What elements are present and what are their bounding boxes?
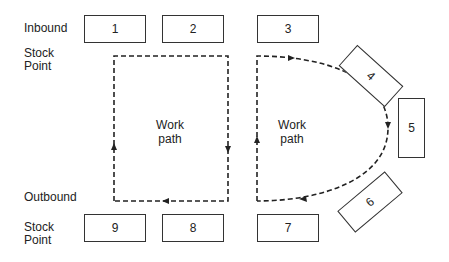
station-8: 8 bbox=[162, 214, 224, 242]
station-1: 1 bbox=[84, 15, 146, 43]
station-2: 2 bbox=[162, 15, 224, 43]
path-label: path bbox=[145, 132, 195, 146]
path-label: path bbox=[267, 132, 317, 146]
arrow-down-icon bbox=[385, 122, 391, 129]
station-9: 9 bbox=[84, 214, 146, 242]
station-6-label: 6 bbox=[363, 194, 377, 209]
station-5: 5 bbox=[398, 98, 425, 158]
left-work-path-label: Work path bbox=[145, 118, 195, 146]
work-label: Work bbox=[145, 118, 195, 132]
arrow-up-icon bbox=[254, 136, 260, 143]
arrow-down-icon bbox=[225, 146, 231, 153]
work-path-lines bbox=[0, 0, 449, 262]
right-work-path-label: Work path bbox=[267, 118, 317, 146]
arrow-left-icon bbox=[162, 198, 169, 204]
station-3: 3 bbox=[257, 15, 319, 43]
inbound-label: Inbound bbox=[24, 22, 67, 35]
outbound-point-label: Point bbox=[24, 234, 51, 247]
station-7: 7 bbox=[257, 214, 319, 242]
arrow-up-icon bbox=[111, 143, 117, 150]
work-label: Work bbox=[267, 118, 317, 132]
station-4-label: 4 bbox=[364, 69, 378, 84]
arrow-right-icon bbox=[288, 55, 295, 61]
outbound-label: Outbound bbox=[24, 191, 77, 204]
inbound-point-label: Point bbox=[24, 60, 51, 73]
